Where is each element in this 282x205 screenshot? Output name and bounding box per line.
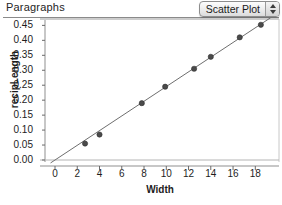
arrow-up-icon[interactable] <box>270 4 276 8</box>
plot-type-stepper[interactable] <box>265 2 279 16</box>
plot-canvas <box>0 18 282 205</box>
plot-type-value: Scatter Plot <box>200 2 265 16</box>
arrow-down-icon[interactable] <box>270 10 276 14</box>
data-point <box>163 84 168 89</box>
panel-title: Paragraphs <box>6 1 65 13</box>
plot-type-select[interactable]: Scatter Plot <box>199 1 280 17</box>
data-point <box>192 66 197 71</box>
scatter-plot-panel: Paragraphs Scatter Plot recipLength Widt… <box>0 0 282 205</box>
data-point <box>208 54 213 59</box>
data-point <box>139 101 144 106</box>
data-point <box>97 132 102 137</box>
data-point <box>258 22 263 27</box>
data-point <box>82 141 87 146</box>
data-point <box>237 35 242 40</box>
chart-container: recipLength Width 0.000.050.100.150.200.… <box>0 18 282 205</box>
